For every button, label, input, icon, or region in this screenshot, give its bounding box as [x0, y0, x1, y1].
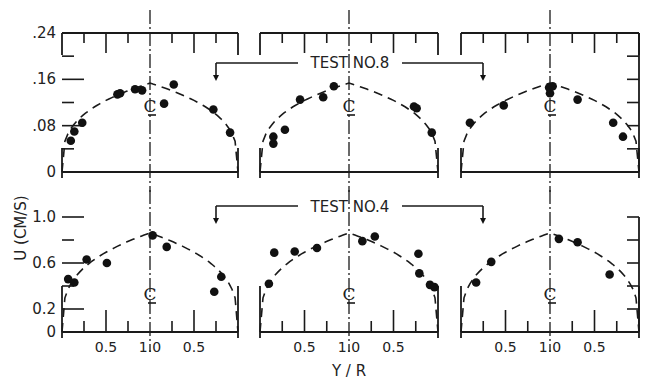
data-point	[414, 250, 423, 259]
velocity-profile-chart: C0.08.16.24CCC0.51.00.500.20.61.0C0.51.0…	[0, 0, 653, 385]
bracket-left-arrow-icon	[213, 218, 219, 224]
row-title-test-4: TEST NO.4	[310, 198, 390, 216]
data-point	[555, 235, 564, 244]
data-point	[412, 104, 421, 113]
centerline-label: C	[543, 96, 556, 116]
data-point	[116, 89, 125, 98]
data-point	[281, 125, 290, 134]
data-point	[138, 86, 147, 95]
data-point	[427, 128, 436, 137]
y-tick-label: 0	[46, 323, 56, 341]
data-point	[270, 248, 279, 257]
panel-test8-3: C	[461, 10, 639, 192]
data-point	[169, 80, 178, 89]
x-axis-label: Y / R	[331, 362, 366, 380]
centerline-label: C	[143, 284, 156, 304]
data-point	[330, 82, 339, 91]
data-point	[160, 99, 169, 108]
data-point	[499, 101, 508, 110]
panel-test8-2: C	[260, 10, 438, 192]
data-point	[358, 237, 367, 246]
data-point	[82, 255, 91, 264]
data-point	[78, 118, 87, 127]
data-point	[472, 278, 481, 287]
data-point	[466, 118, 475, 127]
x-tick-label: 1.0	[139, 339, 161, 355]
data-point	[70, 127, 79, 136]
bracket-left-arrow-icon	[213, 75, 219, 81]
centerline-label: C	[543, 284, 556, 304]
centerline-label: C	[342, 96, 355, 116]
data-point	[573, 238, 582, 247]
x-tick-label: 0.5	[382, 339, 404, 355]
data-point	[609, 118, 618, 127]
data-point	[319, 93, 328, 102]
data-point	[162, 243, 171, 252]
data-point	[605, 270, 614, 279]
centerline-label: C	[143, 96, 156, 116]
data-point	[70, 278, 79, 287]
y-tick-label: 0.2	[32, 300, 56, 318]
data-point	[226, 128, 235, 137]
data-point	[290, 247, 299, 256]
data-point	[67, 136, 76, 145]
y-tick-label: 1.0	[32, 208, 56, 226]
data-point	[313, 244, 322, 253]
x-tick-label: 0.5	[583, 339, 605, 355]
y-axis-label: U (CM/S)	[12, 195, 30, 260]
y-tick-label: .08	[32, 117, 56, 135]
data-point	[103, 259, 112, 268]
data-point	[265, 279, 274, 288]
data-point	[269, 139, 278, 148]
data-point	[296, 95, 305, 104]
data-point	[430, 283, 439, 292]
x-tick-label: 0.5	[494, 339, 516, 355]
y-tick-label: 0.6	[32, 254, 56, 272]
y-tick-label: 0	[46, 163, 56, 181]
y-tick-label: .24	[32, 24, 56, 42]
data-point	[548, 82, 557, 91]
centerline-label: C	[342, 284, 355, 304]
data-point	[619, 132, 628, 141]
data-point	[209, 105, 218, 114]
bracket-right-arrow-icon	[480, 75, 486, 81]
data-point	[487, 258, 496, 267]
x-tick-label: 0.5	[293, 339, 315, 355]
row-title-test-8: TEST NO.8	[310, 54, 390, 72]
x-tick-label: 0.5	[183, 339, 205, 355]
panel-test4-1: C0.51.00.500.20.61.0	[32, 190, 238, 355]
data-point	[573, 95, 582, 104]
data-point	[210, 287, 219, 296]
x-tick-label: 1.0	[539, 339, 561, 355]
x-tick-label: 0.5	[95, 339, 117, 355]
x-tick-label: 1.0	[338, 339, 360, 355]
bracket-right-arrow-icon	[480, 218, 486, 224]
y-tick-label: .16	[32, 70, 56, 88]
data-point	[217, 273, 226, 282]
data-point	[371, 232, 380, 241]
data-point	[415, 269, 424, 278]
data-point	[148, 231, 157, 240]
